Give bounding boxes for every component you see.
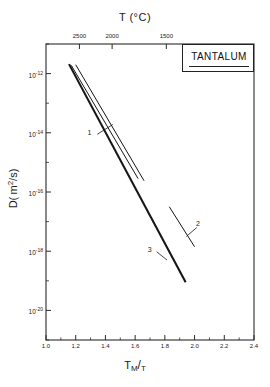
curve-label-1: 1 — [88, 129, 92, 136]
y-tick-label: 10-14 — [18, 128, 43, 137]
y-tick-exponent: -18 — [36, 247, 43, 253]
y-axis-title-close: ) — [7, 169, 19, 173]
material-legend-box: TANTALUM — [182, 44, 254, 72]
x-tick-label: 1.8 — [161, 343, 169, 349]
y-tick-label: 10-12 — [18, 69, 43, 78]
top-axis-tick-label: 1500 — [160, 33, 173, 39]
y-tick-base: 10 — [29, 249, 36, 256]
x-axis-title-denom: T — [141, 364, 146, 373]
x-axis-title: TM/T — [0, 358, 270, 373]
top-axis-tick-label: 2000 — [105, 33, 118, 39]
top-axis-tick-label: 2500 — [73, 33, 86, 39]
annotation-leader-2 — [186, 228, 196, 237]
plot-frame — [46, 44, 254, 340]
x-tick-label: 2.2 — [220, 343, 228, 349]
y-tick-exponent: -20 — [36, 306, 43, 312]
y-axis-title: D( m2/s) — [6, 144, 19, 234]
series-line-1b — [76, 65, 144, 181]
y-tick-exponent: -14 — [36, 128, 43, 134]
y-tick-base: 10 — [29, 308, 36, 315]
x-tick-label: 1.4 — [101, 343, 109, 349]
material-legend-label: TANTALUM — [183, 51, 255, 62]
y-axis-title-open: ( m — [7, 185, 19, 200]
y-tick-base: 10 — [29, 71, 36, 78]
series-line-2 — [169, 207, 194, 247]
annotation-leader-3 — [157, 252, 167, 260]
series-line-1 — [71, 65, 138, 178]
y-axis-title-exponent: 2 — [6, 181, 15, 185]
y-axis-title-symbol: D — [7, 200, 19, 208]
y-tick-label: 10-20 — [18, 306, 43, 315]
x-tick-label: 1.6 — [131, 343, 139, 349]
x-tick-label: 1.2 — [72, 343, 80, 349]
x-axis-title-sub: M — [131, 364, 138, 373]
curve-label-2: 2 — [196, 220, 200, 227]
y-axis-title-div: /s — [7, 172, 19, 181]
y-tick-exponent: -16 — [36, 188, 43, 194]
y-tick-label: 10-16 — [18, 188, 43, 197]
x-tick-label: 2.0 — [190, 343, 198, 349]
y-tick-base: 10 — [29, 190, 36, 197]
y-tick-base: 10 — [29, 130, 36, 137]
x-axis-title-main: T — [124, 359, 131, 371]
diffusion-chart-figure: T (°C) TANTALUM D( m2/s) TM/T 1.01.21.41… — [0, 0, 270, 387]
material-legend-underline — [189, 66, 249, 67]
y-tick-exponent: -12 — [36, 69, 43, 75]
curve-label-3: 3 — [148, 246, 152, 253]
y-tick-label: 10-18 — [18, 247, 43, 256]
x-tick-label: 2.4 — [250, 343, 258, 349]
series-line-3 — [69, 64, 186, 282]
x-tick-label: 1.0 — [42, 343, 50, 349]
